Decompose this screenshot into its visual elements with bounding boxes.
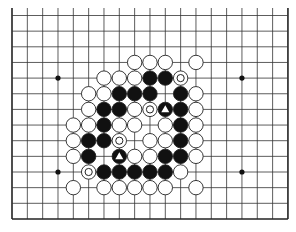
black-stone[interactable] (143, 165, 157, 179)
stone-disc (158, 55, 172, 69)
black-stone[interactable] (173, 149, 187, 163)
stone-disc (81, 118, 95, 132)
stone-disc (66, 134, 80, 148)
white-stone[interactable] (97, 87, 111, 101)
white-stone[interactable] (127, 102, 141, 116)
stone-disc (189, 149, 203, 163)
white-stone[interactable] (143, 149, 157, 163)
black-stone[interactable] (158, 149, 172, 163)
white-stone[interactable] (127, 118, 141, 132)
stone-disc (112, 87, 126, 101)
white-stone[interactable] (143, 180, 157, 194)
black-stone[interactable] (158, 165, 172, 179)
black-stone[interactable] (112, 87, 126, 101)
stone-disc (127, 180, 141, 194)
stone-disc (112, 134, 126, 148)
white-stone[interactable] (81, 87, 95, 101)
white-stone-circle-marked[interactable] (173, 71, 187, 85)
white-stone[interactable] (158, 180, 172, 194)
black-stone[interactable] (173, 134, 187, 148)
white-stone[interactable] (173, 165, 187, 179)
white-stone-circle-marked[interactable] (143, 102, 157, 116)
black-stone[interactable] (173, 87, 187, 101)
white-stone[interactable] (189, 118, 203, 132)
black-stone[interactable] (81, 134, 95, 148)
white-stone-circle-marked[interactable] (112, 134, 126, 148)
black-stone-triangle-marked[interactable] (158, 102, 172, 116)
stone-disc (81, 165, 95, 179)
black-stone[interactable] (127, 87, 141, 101)
black-stone[interactable] (97, 102, 111, 116)
white-stone[interactable] (189, 55, 203, 69)
black-stone[interactable] (97, 118, 111, 132)
white-stone[interactable] (189, 149, 203, 163)
stone-disc (81, 149, 95, 163)
white-stone[interactable] (158, 134, 172, 148)
white-stone[interactable] (189, 102, 203, 116)
white-stone[interactable] (127, 180, 141, 194)
white-stone[interactable] (127, 149, 141, 163)
black-stone[interactable] (112, 165, 126, 179)
stone-disc (81, 134, 95, 148)
white-stone[interactable] (81, 118, 95, 132)
white-stone[interactable] (81, 102, 95, 116)
white-stone[interactable] (189, 180, 203, 194)
white-stone[interactable] (189, 134, 203, 148)
white-stone[interactable] (127, 71, 141, 85)
stone-disc (127, 102, 141, 116)
stone-disc (189, 180, 203, 194)
black-stone[interactable] (97, 165, 111, 179)
stone-disc (158, 149, 172, 163)
white-stone[interactable] (189, 87, 203, 101)
black-stone[interactable] (173, 118, 187, 132)
stone-disc (127, 55, 141, 69)
black-stone[interactable] (173, 102, 187, 116)
stone-disc (143, 165, 157, 179)
stone-disc (143, 55, 157, 69)
stone-disc (189, 118, 203, 132)
stone-disc (143, 149, 157, 163)
stone-disc (158, 118, 172, 132)
black-stone-triangle-marked[interactable] (112, 149, 126, 163)
white-stone[interactable] (127, 55, 141, 69)
stone-disc (97, 180, 111, 194)
stone-disc (112, 71, 126, 85)
white-stone[interactable] (97, 180, 111, 194)
black-stone[interactable] (127, 165, 141, 179)
stone-disc (173, 118, 187, 132)
stone-disc (143, 134, 157, 148)
star-point (239, 169, 244, 174)
stone-disc (189, 87, 203, 101)
stone-disc (127, 118, 141, 132)
white-stone[interactable] (112, 71, 126, 85)
white-stone[interactable] (66, 118, 80, 132)
stone-disc (66, 180, 80, 194)
star-point (55, 76, 60, 81)
black-stone[interactable] (81, 149, 95, 163)
stone-disc (127, 71, 141, 85)
white-stone[interactable] (143, 55, 157, 69)
white-stone[interactable] (97, 71, 111, 85)
white-stone[interactable] (112, 180, 126, 194)
stone-disc (158, 71, 172, 85)
white-stone[interactable] (66, 180, 80, 194)
white-stone[interactable] (112, 118, 126, 132)
stone-disc (112, 180, 126, 194)
stone-disc (97, 71, 111, 85)
black-stone[interactable] (143, 71, 157, 85)
white-stone[interactable] (66, 149, 80, 163)
stone-disc (143, 71, 157, 85)
stone-disc (189, 134, 203, 148)
white-stone-circle-marked[interactable] (81, 165, 95, 179)
white-stone[interactable] (158, 55, 172, 69)
white-stone[interactable] (66, 134, 80, 148)
white-stone[interactable] (143, 134, 157, 148)
black-stone[interactable] (112, 102, 126, 116)
stone-disc (97, 102, 111, 116)
black-stone[interactable] (143, 87, 157, 101)
black-stone[interactable] (158, 71, 172, 85)
go-board[interactable] (0, 0, 296, 232)
white-stone[interactable] (158, 118, 172, 132)
black-stone[interactable] (97, 134, 111, 148)
stone-disc (112, 165, 126, 179)
